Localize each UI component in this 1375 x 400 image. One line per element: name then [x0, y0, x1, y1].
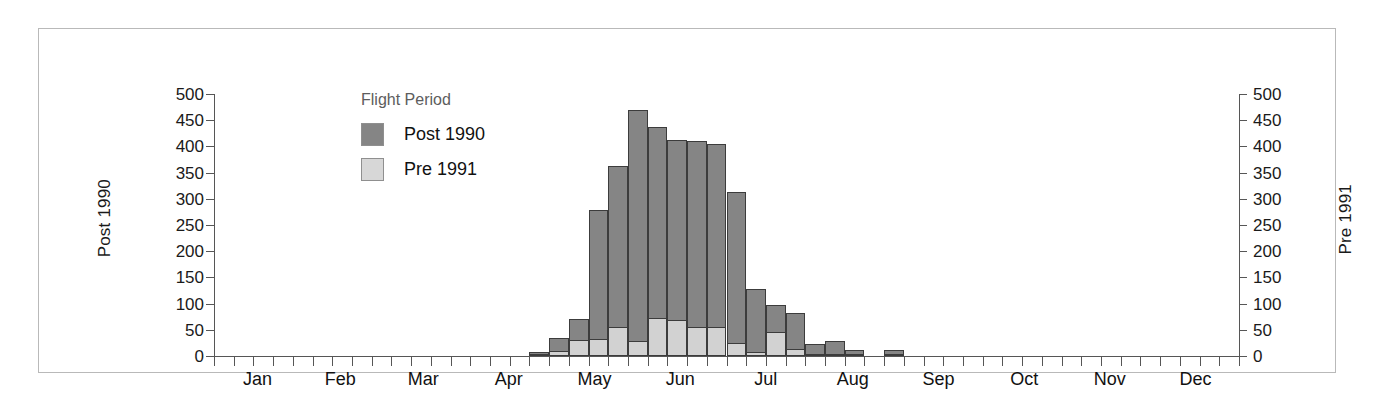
x-tick-14 — [490, 357, 491, 366]
x-tick-42 — [1042, 357, 1043, 366]
x-tick-28 — [766, 357, 767, 366]
x-tick-18 — [569, 357, 570, 366]
right-tick-mark-100 — [1239, 304, 1247, 305]
x-tick-35 — [904, 357, 905, 366]
x-tick-37 — [943, 357, 944, 366]
left-tick-mark-0 — [206, 356, 214, 357]
month-label-oct: Oct — [994, 369, 1054, 390]
right-tick-mark-50 — [1239, 330, 1247, 331]
x-tick-1 — [234, 357, 235, 366]
left-tick-label-250: 250 — [152, 217, 204, 234]
x-tick-34 — [884, 357, 885, 366]
month-label-apr: Apr — [479, 369, 539, 390]
bar-post-1990-19 — [589, 210, 609, 356]
right-tick-label-50: 50 — [1253, 322, 1305, 339]
x-tick-33 — [864, 357, 865, 366]
x-tick-13 — [470, 357, 471, 366]
legend-swatch-pre-1991 — [361, 158, 384, 181]
legend-label-post-1990: Post 1990 — [404, 124, 485, 145]
right-tick-label-450: 450 — [1253, 112, 1305, 129]
bar-pre-1991-28 — [766, 332, 786, 356]
x-tick-43 — [1062, 357, 1063, 366]
bar-post-1990-25 — [707, 144, 727, 356]
bar-pre-1991-22 — [648, 318, 668, 356]
right-axis-title: Pre 1991 — [1336, 184, 1356, 255]
left-tick-mark-500 — [206, 94, 214, 95]
x-tick-8 — [372, 357, 373, 366]
right-tick-label-250: 250 — [1253, 217, 1305, 234]
month-label-jun: Jun — [650, 369, 710, 390]
x-tick-4 — [293, 357, 294, 366]
x-tick-25 — [707, 357, 708, 366]
legend: Flight Period Post 1990 Pre 1991 — [361, 91, 485, 193]
month-label-sep: Sep — [909, 369, 969, 390]
bar-pre-1991-30 — [805, 354, 825, 356]
month-label-mar: Mar — [393, 369, 453, 390]
month-label-may: May — [565, 369, 625, 390]
x-tick-49 — [1180, 357, 1181, 366]
month-label-nov: Nov — [1080, 369, 1140, 390]
x-tick-12 — [451, 357, 452, 366]
legend-label-pre-1991: Pre 1991 — [404, 159, 477, 180]
legend-item-post-1990: Post 1990 — [361, 123, 485, 146]
left-tick-label-100: 100 — [152, 296, 204, 313]
bar-pre-1991-26 — [727, 343, 747, 356]
left-tick-label-0: 0 — [152, 348, 204, 365]
x-tick-40 — [1002, 357, 1003, 366]
x-tick-21 — [628, 357, 629, 366]
right-tick-mark-400 — [1239, 146, 1247, 147]
left-tick-label-350: 350 — [152, 165, 204, 182]
left-tick-mark-250 — [206, 225, 214, 226]
x-tick-29 — [786, 357, 787, 366]
bar-pre-1991-21 — [628, 341, 648, 356]
x-tick-9 — [391, 357, 392, 366]
bar-pre-1991-25 — [707, 327, 727, 356]
right-tick-label-500: 500 — [1253, 86, 1305, 103]
x-tick-46 — [1121, 357, 1122, 366]
left-tick-label-200: 200 — [152, 243, 204, 260]
x-tick-47 — [1140, 357, 1141, 366]
bar-pre-1991-20 — [608, 327, 628, 356]
bar-pre-1991-29 — [786, 349, 806, 356]
x-tick-48 — [1160, 357, 1161, 366]
bar-pre-1991-27 — [746, 352, 766, 356]
bar-pre-1991-34 — [884, 354, 904, 356]
x-tick-19 — [589, 357, 590, 366]
left-tick-label-50: 50 — [152, 322, 204, 339]
left-tick-mark-100 — [206, 304, 214, 305]
x-tick-22 — [648, 357, 649, 366]
x-tick-17 — [549, 357, 550, 366]
right-tick-mark-300 — [1239, 199, 1247, 200]
x-tick-7 — [352, 357, 353, 366]
x-tick-0 — [214, 357, 215, 366]
left-tick-label-500: 500 — [152, 86, 204, 103]
x-tick-20 — [608, 357, 609, 366]
bar-pre-1991-19 — [589, 339, 609, 356]
left-tick-mark-350 — [206, 173, 214, 174]
month-label-jul: Jul — [736, 369, 796, 390]
x-tick-2 — [253, 357, 254, 366]
x-tick-32 — [845, 357, 846, 366]
left-tick-mark-450 — [206, 120, 214, 121]
x-tick-39 — [983, 357, 984, 366]
right-tick-label-100: 100 — [1253, 296, 1305, 313]
x-tick-16 — [529, 357, 530, 366]
x-tick-6 — [332, 357, 333, 366]
bar-pre-1991-18 — [569, 340, 589, 356]
x-tick-44 — [1081, 357, 1082, 366]
bar-pre-1991-32 — [845, 354, 865, 356]
right-tick-label-0: 0 — [1253, 348, 1305, 365]
right-tick-mark-0 — [1239, 356, 1247, 357]
bar-post-1990-21 — [628, 110, 648, 356]
left-tick-label-300: 300 — [152, 191, 204, 208]
left-tick-mark-50 — [206, 330, 214, 331]
x-tick-36 — [924, 357, 925, 366]
right-tick-mark-500 — [1239, 94, 1247, 95]
bar-pre-1991-16 — [529, 354, 549, 356]
bar-post-1990-26 — [727, 192, 747, 356]
right-tick-mark-350 — [1239, 173, 1247, 174]
left-tick-label-400: 400 — [152, 138, 204, 155]
x-tick-52 — [1239, 357, 1240, 366]
x-tick-24 — [687, 357, 688, 366]
x-tick-11 — [431, 357, 432, 366]
